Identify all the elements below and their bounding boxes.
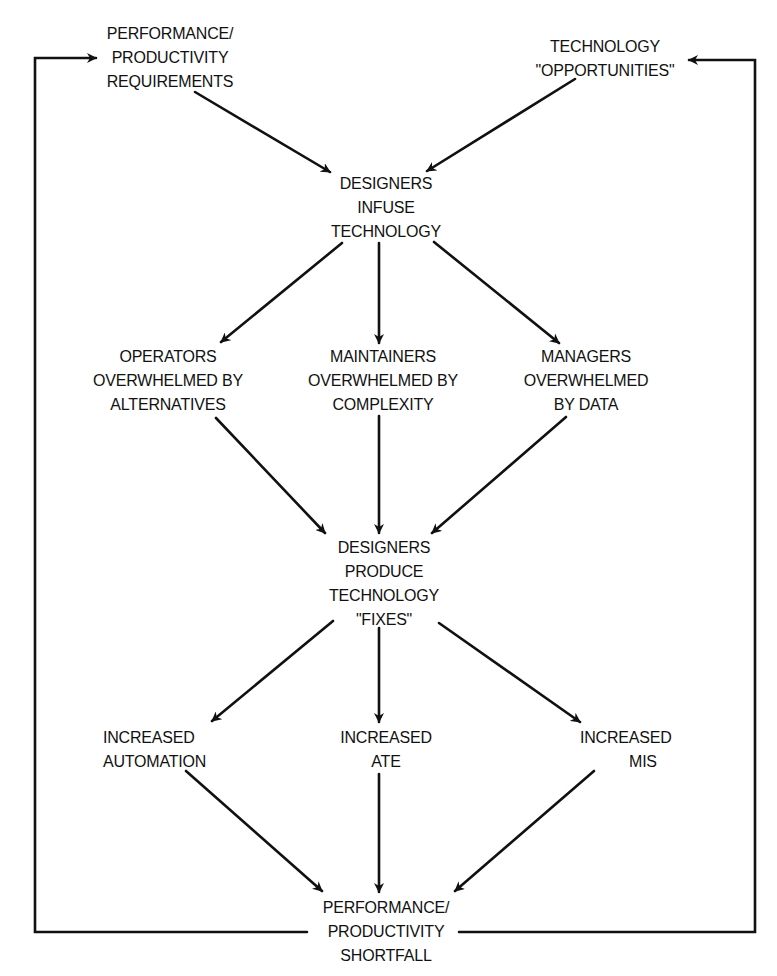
arrow-opportunities-to-infuse: [427, 79, 575, 171]
node-line: INFUSE: [331, 196, 441, 220]
node-line: OVERWHELMED: [524, 369, 649, 393]
feedback-loop-right: [459, 60, 755, 932]
node-designers-produce-fixes: DESIGNERS PRODUCE TECHNOLOGY "FIXES": [329, 536, 439, 632]
node-line: SHORTFALL: [323, 944, 450, 968]
arrow-managers-to-fixes: [432, 417, 566, 533]
node-line: MIS: [580, 750, 672, 774]
node-line: MANAGERS: [524, 345, 649, 369]
node-operators-overwhelmed: OPERATORS OVERWHELMED BY ALTERNATIVES: [93, 345, 243, 417]
node-line: MAINTAINERS: [308, 345, 458, 369]
node-managers-overwhelmed: MANAGERS OVERWHELMED BY DATA: [524, 345, 649, 417]
arrow-operators-to-fixes: [216, 418, 325, 533]
arrow-infuse-to-managers: [434, 242, 559, 343]
node-line: PRODUCTIVITY: [323, 920, 450, 944]
node-line: INCREASED: [103, 726, 206, 750]
arrow-infuse-to-operators: [221, 243, 342, 342]
node-increased-mis: INCREASED MIS: [580, 726, 672, 774]
node-line: PERFORMANCE/: [323, 896, 450, 920]
node-technology-opportunities: TECHNOLOGY "OPPORTUNITIES": [536, 35, 675, 83]
node-line: COMPLEXITY: [308, 393, 458, 417]
arrow-mis-to-shortfall: [455, 771, 594, 891]
node-line: OVERWHELMED BY: [308, 369, 458, 393]
node-line: ATE: [340, 750, 432, 774]
node-line: TECHNOLOGY: [536, 35, 675, 59]
node-line: AUTOMATION: [103, 750, 206, 774]
node-maintainers-overwhelmed: MAINTAINERS OVERWHELMED BY COMPLEXITY: [308, 345, 458, 417]
node-line: DESIGNERS: [329, 536, 439, 560]
node-increased-ate: INCREASED ATE: [340, 726, 432, 774]
node-line: DESIGNERS: [331, 172, 441, 196]
arrow-automation-to-shortfall: [186, 771, 322, 891]
arrow-fixes-to-mis: [439, 623, 580, 722]
node-line: REQUIREMENTS: [107, 70, 234, 94]
arrow-requirements-to-infuse: [195, 92, 330, 172]
node-line: TECHNOLOGY: [331, 220, 441, 244]
arrow-fixes-to-automation: [212, 621, 333, 721]
node-line: INCREASED: [580, 726, 672, 750]
node-line: ALTERNATIVES: [93, 393, 243, 417]
node-line: PRODUCTIVITY: [107, 46, 234, 70]
node-line: INCREASED: [340, 726, 432, 750]
diagram-connectors: [0, 0, 777, 976]
node-line: BY DATA: [524, 393, 649, 417]
node-performance-shortfall: PERFORMANCE/ PRODUCTIVITY SHORTFALL: [319, 896, 454, 968]
feedback-loop-left: [35, 58, 307, 932]
node-line: OVERWHELMED BY: [93, 369, 243, 393]
node-line: "OPPORTUNITIES": [536, 59, 675, 83]
node-line: "FIXES": [329, 608, 439, 632]
node-line: PERFORMANCE/: [107, 22, 234, 46]
node-line: TECHNOLOGY: [329, 584, 439, 608]
node-designers-infuse-technology: DESIGNERS INFUSE TECHNOLOGY: [331, 172, 441, 244]
node-increased-automation: INCREASED AUTOMATION: [103, 726, 206, 774]
node-line: PRODUCE: [329, 560, 439, 584]
node-line: OPERATORS: [93, 345, 243, 369]
node-performance-requirements: PERFORMANCE/ PRODUCTIVITY REQUIREMENTS: [107, 22, 234, 94]
